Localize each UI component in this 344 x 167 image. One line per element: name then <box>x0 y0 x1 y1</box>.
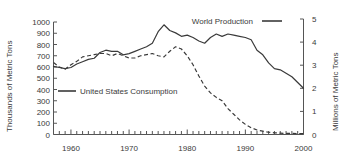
right-tick-label: 0 <box>312 131 317 140</box>
right-tick-label: 1 <box>312 107 317 116</box>
right-tick-labels: 012345 <box>312 15 317 140</box>
left-tick-label: 0 <box>46 131 51 140</box>
x-tick-labels: 19601970198019902000 <box>62 144 313 153</box>
right-tick-label: 3 <box>312 61 317 70</box>
right-axis-title: Millions of Metric Tons <box>331 52 340 131</box>
left-tick-label: 400 <box>37 86 51 95</box>
left-tick-label: 500 <box>37 74 51 83</box>
right-tick-label: 5 <box>312 15 317 24</box>
right-tick-label: 4 <box>312 38 317 47</box>
x-tick-label: 1990 <box>236 144 254 153</box>
left-tick-label: 1000 <box>32 18 50 27</box>
left-tick-label: 800 <box>37 41 51 50</box>
x-tick-label: 1960 <box>62 144 80 153</box>
series-world-production <box>54 25 304 89</box>
x-tick-label: 1980 <box>178 144 196 153</box>
left-tick-label: 700 <box>37 52 51 61</box>
left-tick-label: 100 <box>37 119 51 128</box>
left-tick-labels: 01002003004005006007008009001000 <box>32 18 50 140</box>
chart-figure: Thousands of Metric Tons Millions of Met… <box>0 0 344 167</box>
left-tick-label: 900 <box>37 29 51 38</box>
x-tick-label: 2000 <box>295 144 313 153</box>
line-chart: Thousands of Metric Tons Millions of Met… <box>0 0 344 167</box>
left-tick-label: 200 <box>37 108 51 117</box>
left-tick-marks <box>54 22 58 135</box>
left-tick-label: 600 <box>37 63 51 72</box>
left-axis-title: Thousands of Metric Tons <box>5 41 14 132</box>
legend-label-world-production: World Production <box>192 17 253 26</box>
x-tick-label: 1970 <box>120 144 138 153</box>
right-tick-marks <box>300 19 304 135</box>
x-tick-marks <box>54 130 304 135</box>
legend-label-us-consumption: United States Consumption <box>80 87 177 96</box>
left-tick-label: 300 <box>37 97 51 106</box>
right-tick-label: 2 <box>312 84 317 93</box>
